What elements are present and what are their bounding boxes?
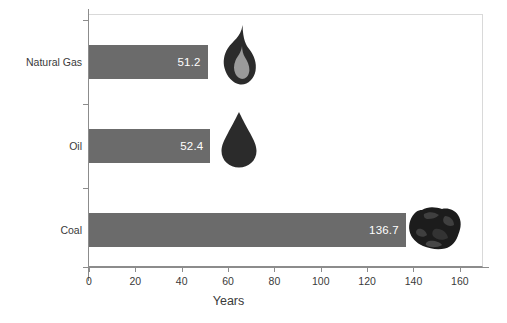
x-axis-tick bbox=[460, 267, 461, 272]
x-axis-tick bbox=[182, 267, 183, 272]
x-axis-tick-label: 60 bbox=[222, 275, 234, 287]
category-label-coal: Coal bbox=[0, 224, 82, 236]
bar-value-oil: 52.4 bbox=[180, 140, 203, 152]
x-axis-tick-label: 100 bbox=[312, 275, 330, 287]
x-axis-tick-label: 0 bbox=[86, 275, 92, 287]
x-axis-tick bbox=[228, 267, 229, 272]
category-label-natural-gas: Natural Gas bbox=[0, 56, 82, 68]
oil-drop-icon bbox=[219, 111, 259, 173]
x-axis-tick bbox=[274, 267, 275, 272]
bar-chart: Natural Gas Oil Coal 51.2 52.4 136.7 bbox=[0, 0, 507, 323]
bar-value-natural-gas: 51.2 bbox=[177, 56, 200, 68]
x-axis-tick bbox=[413, 267, 414, 272]
bar-oil[interactable]: 52.4 bbox=[89, 129, 210, 163]
coal-lump-icon bbox=[407, 205, 463, 255]
bar-value-coal: 136.7 bbox=[369, 224, 399, 236]
bar-coal[interactable]: 136.7 bbox=[89, 213, 406, 247]
x-axis-tick-label: 40 bbox=[176, 275, 188, 287]
x-axis-tick-label: 160 bbox=[451, 275, 469, 287]
x-axis-tick bbox=[321, 267, 322, 272]
x-axis-tick-label: 120 bbox=[358, 275, 376, 287]
x-axis-line bbox=[83, 267, 489, 268]
x-axis-tick bbox=[367, 267, 368, 272]
x-axis-title-text: Years bbox=[213, 294, 245, 308]
x-axis-tick bbox=[89, 267, 90, 272]
x-axis-title: Years bbox=[0, 294, 507, 308]
x-axis-tick bbox=[135, 267, 136, 272]
bar-natural-gas[interactable]: 51.2 bbox=[89, 45, 208, 79]
x-axis-tick-label: 20 bbox=[130, 275, 142, 287]
x-axis-tick-label: 140 bbox=[405, 275, 423, 287]
category-label-oil: Oil bbox=[0, 140, 82, 152]
x-axis-tick-label: 80 bbox=[269, 275, 281, 287]
flame-icon bbox=[220, 24, 258, 90]
